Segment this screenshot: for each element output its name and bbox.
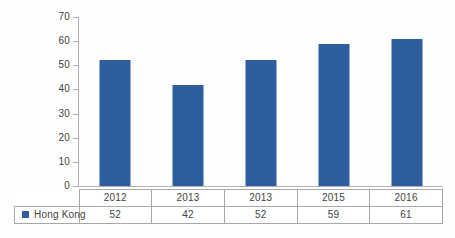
y-axis-tick bbox=[73, 89, 78, 90]
table-header-cell: 2013 bbox=[152, 190, 225, 207]
bar bbox=[100, 60, 131, 186]
y-axis-tick bbox=[73, 138, 78, 139]
table-header-cell: 2016 bbox=[370, 190, 443, 207]
bar bbox=[245, 60, 276, 186]
table-row-header: 2012 2013 2013 2015 2016 bbox=[15, 190, 443, 207]
data-table: 2012 2013 2013 2015 2016 Hong Kong 52 42… bbox=[14, 189, 443, 224]
y-axis-tick-label-holder: 20 bbox=[0, 133, 70, 143]
y-axis-tick-label-holder: 70 bbox=[0, 12, 70, 22]
table-value-cell: 52 bbox=[79, 207, 152, 224]
table-header-cell: 2012 bbox=[79, 190, 152, 207]
y-axis-tick bbox=[73, 17, 78, 18]
y-axis-tick-label: 40 bbox=[10, 84, 70, 94]
legend-swatch-icon bbox=[22, 211, 29, 218]
plot-area: 706050403020100 bbox=[0, 0, 455, 190]
table-header-cell: 2015 bbox=[297, 190, 370, 207]
y-axis-tick-label-holder: 10 bbox=[0, 157, 70, 167]
table-value-cell: 61 bbox=[370, 207, 443, 224]
bar-slot bbox=[79, 17, 152, 186]
table-corner-spacer bbox=[15, 190, 80, 207]
legend-label: Hong Kong bbox=[34, 209, 86, 221]
y-axis-tick-label: 70 bbox=[10, 12, 70, 22]
y-axis-tick-label: 20 bbox=[10, 133, 70, 143]
y-axis-tick bbox=[73, 65, 78, 66]
y-axis-tick-label: 50 bbox=[10, 60, 70, 70]
y-axis-tick bbox=[73, 41, 78, 42]
bar bbox=[391, 39, 422, 186]
y-axis-tick-label: 30 bbox=[10, 109, 70, 119]
bar-slot bbox=[370, 17, 443, 186]
y-axis-tick-label-holder: 30 bbox=[0, 109, 70, 119]
y-axis-tick bbox=[73, 114, 78, 115]
y-axis-tick-label-holder: 60 bbox=[0, 36, 70, 46]
y-axis-tick-label-holder: 50 bbox=[0, 60, 70, 70]
y-axis-tick-label: 10 bbox=[10, 157, 70, 167]
y-axis-tick bbox=[73, 162, 78, 163]
bar bbox=[318, 44, 349, 186]
bar-chart-figure: 706050403020100 2012 2013 2013 2015 2016… bbox=[0, 0, 455, 238]
y-axis-tick bbox=[73, 186, 78, 187]
legend-entry: Hong Kong bbox=[15, 207, 80, 224]
y-axis-tick-label: 60 bbox=[10, 36, 70, 46]
bar-slot bbox=[152, 17, 225, 186]
bar bbox=[173, 85, 204, 186]
table-value-cell: 42 bbox=[152, 207, 225, 224]
bars-layer bbox=[79, 17, 443, 186]
bar-slot bbox=[297, 17, 370, 186]
bar-slot bbox=[225, 17, 298, 186]
table-value-cell: 59 bbox=[297, 207, 370, 224]
table-value-cell: 52 bbox=[224, 207, 297, 224]
x-axis-line bbox=[78, 186, 443, 187]
y-axis-tick-label-holder: 40 bbox=[0, 84, 70, 94]
table-row: Hong Kong 52 42 52 59 61 bbox=[15, 207, 443, 224]
table-header-cell: 2013 bbox=[224, 190, 297, 207]
